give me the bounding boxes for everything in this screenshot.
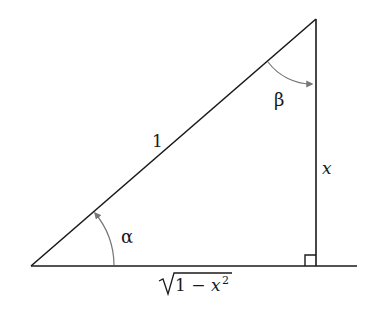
hypotenuse-line [31,19,316,266]
base-radicand: 1 − x [175,275,221,295]
beta-label: β [274,89,284,110]
right-angle-marker [305,255,316,266]
base-exponent: 2 [222,274,229,287]
vertical-side-label: x [322,158,332,178]
right-triangle-diagram: 1 x α β 1 − x 2 [0,0,368,315]
alpha-label: α [121,226,133,247]
base-label: 1 − x 2 [159,273,232,295]
hypotenuse-label: 1 [152,131,163,151]
alpha-angle-arc [95,213,114,265]
beta-angle-arc [268,62,312,84]
